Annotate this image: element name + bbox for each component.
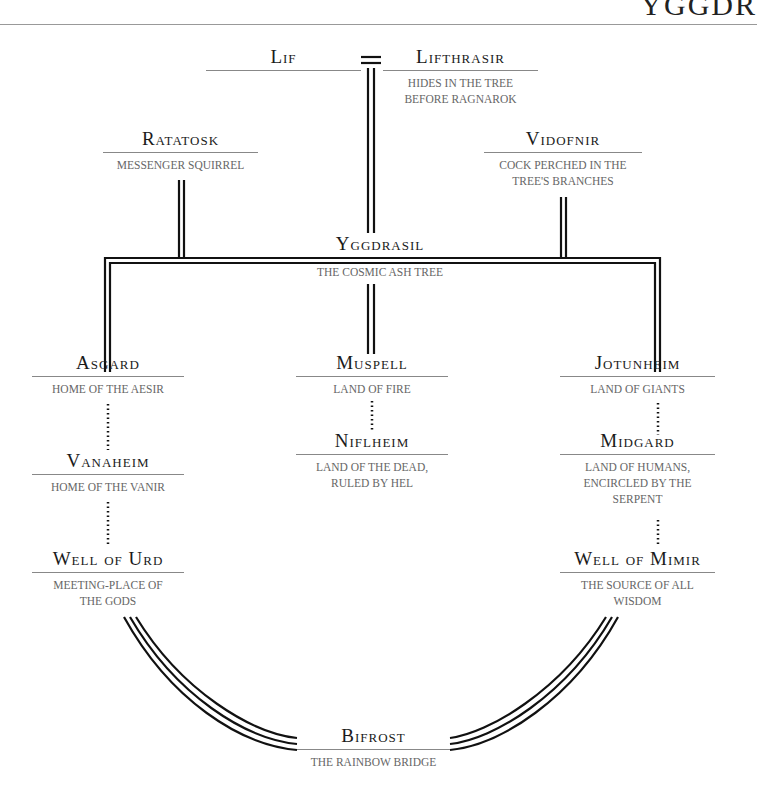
node-lif: Lif [206, 46, 361, 75]
node-muspell-desc: Land of fire [296, 381, 448, 397]
node-well-of-urd-desc: Meeting-place of the gods [32, 577, 184, 609]
node-asgard: Asgard Home of the Aesir [32, 352, 184, 397]
node-ratatosk-name: Ratatosk [103, 128, 258, 150]
node-jotunheim-desc: Land of giants [560, 381, 715, 397]
node-vanaheim-desc: Home of the Vanir [32, 479, 184, 495]
node-muspell-name: Muspell [296, 352, 448, 374]
divider [383, 70, 538, 71]
node-vidofnir: Vidofnir Cock perched in the tree's bran… [484, 128, 642, 189]
divider [560, 572, 715, 573]
divider [560, 454, 715, 455]
divider [32, 376, 184, 377]
node-well-of-mimir: Well of Mimir The source of all wisdom [560, 548, 715, 609]
node-vidofnir-name: Vidofnir [484, 128, 642, 150]
node-asgard-name: Asgard [32, 352, 184, 374]
node-vanaheim: Vanaheim Home of the Vanir [32, 450, 184, 495]
node-niflheim: Niflheim Land of the dead, ruled by Hel [296, 430, 448, 491]
node-vidofnir-desc: Cock perched in the tree's branches [484, 157, 642, 189]
divider [206, 70, 361, 71]
node-well-of-urd: Well of Urd Meeting-place of the gods [32, 548, 184, 609]
divider [32, 474, 184, 475]
divider [296, 454, 448, 455]
node-lifthrasir-name: Lifthrasir [383, 46, 538, 68]
divider [296, 376, 448, 377]
node-bifrost-desc: The rainbow bridge [297, 754, 450, 770]
node-well-of-mimir-desc: The source of all wisdom [560, 577, 715, 609]
node-jotunheim-name: Jotunheim [560, 352, 715, 374]
node-lifthrasir: Lifthrasir Hides in the tree before Ragn… [383, 46, 538, 107]
divider [32, 572, 184, 573]
node-ratatosk-desc: Messenger squirrel [103, 157, 258, 173]
node-muspell: Muspell Land of fire [296, 352, 448, 397]
node-bifrost-name: Bifrost [297, 725, 450, 747]
node-jotunheim: Jotunheim Land of giants [560, 352, 715, 397]
node-bifrost: Bifrost The rainbow bridge [297, 725, 450, 770]
node-midgard-name: Midgard [560, 430, 715, 452]
node-midgard-desc: Land of humans, encircled by the serpent [560, 459, 715, 507]
divider [297, 749, 450, 750]
spacer [290, 255, 470, 264]
tree-connectors [0, 0, 757, 808]
node-lif-name: Lif [206, 46, 361, 68]
node-lifthrasir-desc: Hides in the tree before Ragnarok [383, 75, 538, 107]
node-niflheim-desc: Land of the dead, ruled by Hel [296, 459, 448, 491]
node-well-of-urd-name: Well of Urd [32, 548, 184, 570]
node-asgard-desc: Home of the Aesir [32, 381, 184, 397]
node-yggdrasil-desc: The cosmic ash tree [290, 264, 470, 280]
node-vanaheim-name: Vanaheim [32, 450, 184, 472]
node-niflheim-name: Niflheim [296, 430, 448, 452]
divider [560, 376, 715, 377]
node-midgard: Midgard Land of humans, encircled by the… [560, 430, 715, 507]
divider [103, 152, 258, 153]
node-ratatosk: Ratatosk Messenger squirrel [103, 128, 258, 173]
divider [484, 152, 642, 153]
node-yggdrasil-name: Yggdrasil [290, 233, 470, 255]
node-well-of-mimir-name: Well of Mimir [560, 548, 715, 570]
node-yggdrasil: Yggdrasil The cosmic ash tree [290, 233, 470, 280]
